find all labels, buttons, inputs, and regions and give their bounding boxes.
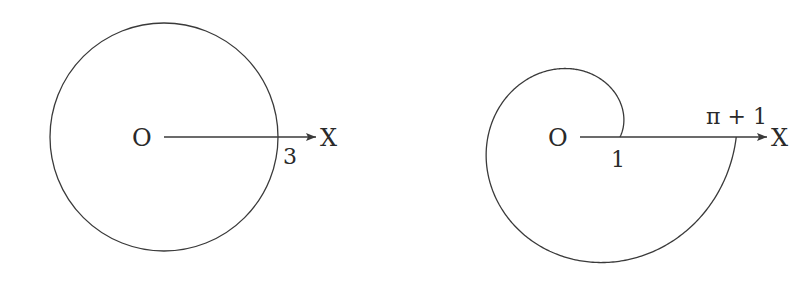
spiral-figure: O X 1 π + 1 <box>486 69 788 263</box>
diagram-canvas: O X 3 O X 1 π + 1 <box>0 0 812 294</box>
end-label: π + 1 <box>706 104 767 129</box>
start-label: 1 <box>611 147 625 172</box>
circle-figure: O X 3 <box>50 23 337 251</box>
axis-label: X <box>771 124 788 152</box>
radius-label: 3 <box>283 144 297 169</box>
origin-label: O <box>548 124 568 152</box>
axis-label: X <box>320 124 337 152</box>
origin-label: O <box>132 124 152 152</box>
